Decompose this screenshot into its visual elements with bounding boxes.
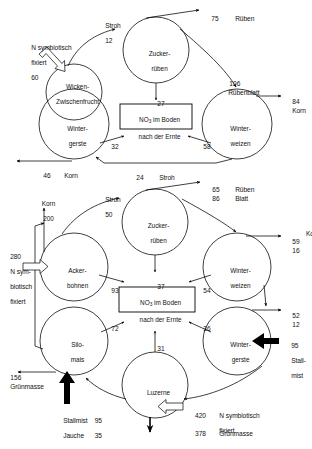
input-label2: Jauche [63,432,84,439]
soil-flow-value: 58 [203,143,210,150]
node-label-line1: Zucker- [149,50,171,57]
input-value: 280 [10,253,21,260]
node-label-winterweizen-top: Winter- weizen [211,118,263,155]
flow-ruben-75-top [146,10,199,18]
output-value-blatt-86-bottom: 86 [205,187,220,210]
soil-flow-value-27-top: 27 [150,92,165,115]
node-label-line2: rüben [150,237,166,244]
soil-box-line1b: im Boden [151,116,180,123]
output-label: Korn [292,107,306,114]
transfer-label: Stroh [105,22,121,29]
node-label-line2: gerste [232,356,250,363]
soil-box-subscript: 3 [150,302,153,307]
transfer-label-stroh-50-bottom: Stroh 50 [98,188,121,226]
output-value-ruben-75-top: 75 [204,7,219,30]
transfer-value-24-top: 24 [129,166,144,189]
transfer-label: Rübenblatt [228,89,259,96]
flow-silomais-ackerbohnen-bottom [35,223,44,349]
output-label-korn-46-top: Korn [57,164,78,187]
soil-flow-value-54-bottom: 54 [196,279,211,302]
soil-flow-value-58-top: 58 [196,135,211,158]
output-label2: Blatt [235,195,248,202]
node-label-line2: Zwischenfrucht [56,98,99,105]
transfer-value: 50 [105,211,112,218]
output-value: 75 [211,15,218,22]
soil-box-line2: nach der Ernte [140,316,182,323]
input-value: 95 [291,342,298,349]
node-label-line2: weizen [231,282,251,289]
soil-flow-value-72-bottom: 72 [104,317,119,340]
input-line1: N symbiotisch [31,44,71,51]
soil-box-line1b: im Boden [152,299,181,306]
soil-box-line2: nach der Ernte [139,133,181,140]
output-label-korn-200-bottom: Korn 200 [28,193,62,230]
transfer-label-stroh-12-top: Stroh 12 [98,14,121,52]
output-value2: 12 [292,321,299,328]
output-label-blatt-bottom: Blatt [228,187,248,210]
node-label-silomais-bottom: Silo- mais [48,334,100,371]
soil-flow-value: 31 [157,345,164,352]
output-label: Rüben [235,15,254,22]
output-label-stroh-16-bottom: Stroh [306,239,312,262]
input-value-grunmasse-378: 378 [186,422,206,445]
node-label-wintergerste-top: Winter- gerste [48,118,100,155]
output-value2: 86 [212,195,219,202]
soil-flow-value: 36 [203,325,210,332]
input-label3: Grünmasse [219,430,253,437]
soil-flow-value-93-bottom: 93 [104,279,119,302]
soil-flow-value: 72 [111,325,118,332]
input-line2: fixiert [31,59,46,66]
output-label-grunmasse-bottom: Grünmasse [3,375,44,398]
soil-flow-value-36-bottom: 36 [196,317,211,340]
node-label-zuckerrueben-bottom: Zucker- rüben [129,215,181,252]
node-label-winterweizen-bottom: Winter- weizen [211,260,263,297]
node-label-line1: Zucker- [148,222,170,229]
node-label-line1: Winter- [230,267,251,274]
input-label-n-fix-top: N symbiotisch fixiert 60 [24,36,72,89]
soil-flow-value-32-top: 32 [104,135,119,158]
input-line1: Stall- [291,357,306,364]
input-line3: fixiert [10,298,25,305]
output-label: Korn [306,230,312,238]
node-label-line2: mais [71,356,85,363]
node-label-line1: Winter- [230,341,251,348]
flow-stroh-24-top [96,157,232,163]
input-label: N symbiotisch [219,412,259,419]
soil-flow-value: 32 [111,143,118,150]
input-label-grunmasse-378: Grünmasse [212,422,253,445]
node-label-zuckerrueben-top: Zucker- rüben [130,43,182,80]
diagram-canvas: Zucker- rüben Wicken- Zwischenfrucht Win… [0,0,312,449]
soil-flow-value: 54 [203,287,210,294]
output-label: Grünmasse [10,383,44,390]
node-label-line1: Winter- [230,125,251,132]
input-line2: mist [291,372,303,379]
soil-box-no3: NO [140,299,150,306]
output-value: 46 [43,172,50,179]
output-value-stroh-12-bottom: 12 [285,313,300,336]
output-value2: 16 [292,247,299,254]
node-label-line1: Winter- [67,125,88,132]
soil-flow-value-31-bottom: 31 [150,337,165,360]
transfer-label-rubenblatt-top: Rübenblatt [221,81,260,104]
output-label-stroh-12-bottom: Stroh [306,313,312,336]
flow-winterweizen-wintergerste-bottom [264,285,266,306]
transfer-label: Stroh [159,174,175,181]
input-label-stallmist-wintergerste: 95 Stall- mist [284,334,306,387]
node-label-luzerne-bottom: Luzerne [129,382,181,404]
node-label-wintergerste-bottom: Winter- gerste [211,334,263,371]
node-label-line1: Silo- [71,341,84,348]
stallmist-arrow-silomais [59,371,75,404]
input-value2: 35 [95,432,102,439]
input-line2: biotisch [10,283,32,290]
node-label-line1: Luzerne [147,389,170,396]
node-label-line2: rüben [151,65,167,72]
input-label-n-fix-ackerbohnen: 280 N sym- biotisch fixiert [3,245,32,313]
node-label-line2: bohnen [67,282,88,289]
soil-box-no3: NO [139,116,149,123]
transfer-label-stroh-24-top: Stroh [152,166,175,189]
soil-flow-value-37-bottom: 37 [150,275,165,298]
input-value: 420 [195,412,206,419]
output-label-korn-84-top: Korn [285,99,306,122]
output-value-korn-46-top: 46 [36,164,51,187]
transfer-value: 24 [136,174,143,181]
